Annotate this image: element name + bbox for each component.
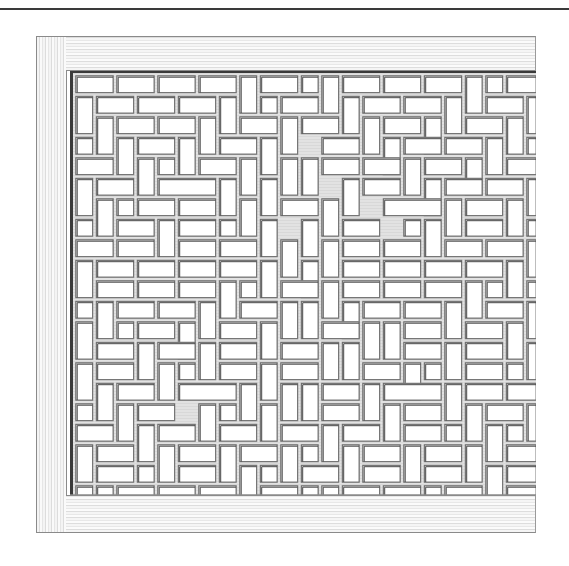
top-rail	[66, 36, 536, 71]
left-stile	[36, 36, 67, 533]
lattice-panel	[70, 70, 536, 496]
window-frame	[36, 36, 536, 533]
fret-lattice-pattern	[70, 70, 536, 496]
page-top-rule	[0, 8, 569, 10]
bottom-rail	[66, 495, 536, 533]
